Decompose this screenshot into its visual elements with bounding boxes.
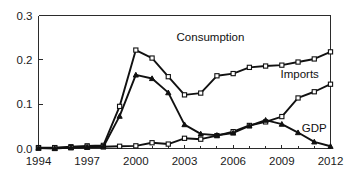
y-axis-tick-labels: 0.00.10.20.3: [17, 10, 33, 155]
data-series-group: [36, 48, 333, 151]
data-point-marker: [264, 64, 268, 68]
series-label-consumption: Consumption: [177, 31, 245, 43]
data-point-marker: [312, 90, 316, 94]
data-point-marker: [150, 141, 154, 145]
y-tick-label: 0.2: [17, 54, 33, 66]
data-point-marker: [182, 93, 186, 97]
series-consumption: [36, 48, 332, 150]
data-point-marker: [199, 137, 203, 141]
data-point-marker: [280, 114, 284, 118]
y-tick-label: 0.3: [17, 10, 33, 22]
data-point-marker: [182, 136, 186, 140]
y-tick-label: 0.0: [17, 143, 33, 155]
data-point-marker: [328, 50, 332, 54]
data-point-marker: [150, 56, 154, 60]
line-chart: 0.00.10.20.3 199419972000200320062009201…: [0, 0, 353, 177]
data-point-marker: [118, 144, 122, 148]
data-point-marker: [296, 96, 300, 100]
data-point-marker: [328, 144, 333, 149]
series-path: [39, 50, 331, 148]
y-tick-label: 0.1: [17, 98, 33, 110]
data-point-marker: [166, 142, 170, 146]
x-axis-tick-labels: 1994199720002003200620092012: [26, 155, 344, 167]
data-point-marker: [134, 48, 138, 52]
x-tick-label: 2009: [269, 155, 295, 167]
series-labels-group: ConsumptionImportsGDP: [177, 31, 327, 134]
data-point-marker: [117, 114, 122, 119]
x-tick-label: 1997: [74, 155, 100, 167]
x-tick-label: 2012: [318, 155, 344, 167]
data-point-marker: [166, 75, 170, 79]
data-point-marker: [312, 57, 316, 61]
data-point-marker: [263, 118, 268, 123]
data-point-marker: [118, 104, 122, 108]
x-tick-label: 2003: [172, 155, 198, 167]
data-point-marker: [134, 144, 138, 148]
data-point-marker: [149, 76, 154, 81]
data-point-marker: [279, 122, 284, 127]
x-tick-label: 1994: [26, 155, 52, 167]
data-point-marker: [328, 82, 332, 86]
data-point-marker: [231, 71, 235, 75]
data-point-marker: [296, 60, 300, 64]
data-point-marker: [247, 65, 251, 69]
series-label-imports: Imports: [281, 68, 320, 80]
chart-figure: 0.00.10.20.3 199419972000200320062009201…: [0, 0, 353, 177]
data-point-marker: [199, 91, 203, 95]
x-tick-label: 2006: [220, 155, 246, 167]
data-point-marker: [133, 72, 138, 77]
x-tick-label: 2000: [123, 155, 149, 167]
data-point-marker: [215, 74, 219, 78]
series-label-gdp: GDP: [302, 122, 327, 134]
